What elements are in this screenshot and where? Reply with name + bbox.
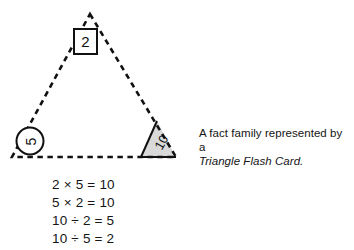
triangle-flash-card-figure: 2 5 10 bbox=[0, 0, 190, 172]
bottom-left-corner-value: 5 bbox=[18, 129, 43, 154]
equation-row: 5 × 2 = 10 bbox=[52, 194, 182, 212]
equation-row: 10 ÷ 2 = 5 bbox=[52, 212, 182, 230]
caption-line-primary: A fact family represented by a bbox=[199, 126, 349, 154]
caption-line-emphasis: Triangle Flash Card. bbox=[199, 154, 349, 168]
equation-row: 10 ÷ 5 = 2 bbox=[52, 230, 182, 248]
fact-family-equation-list: 2 × 5 = 10 5 × 2 = 10 10 ÷ 2 = 5 10 ÷ 5 … bbox=[52, 176, 182, 248]
figure-caption: A fact family represented by a Triangle … bbox=[199, 126, 349, 168]
equation-row: 2 × 5 = 10 bbox=[52, 176, 182, 194]
top-corner-value: 2 bbox=[75, 30, 96, 53]
